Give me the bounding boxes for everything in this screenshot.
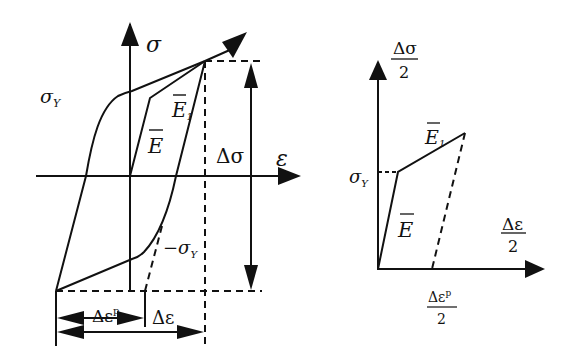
svg-text:E1: E1 — [424, 126, 445, 149]
svg-text:2: 2 — [437, 311, 446, 327]
svg-text:Δσ: Δσ — [393, 38, 417, 58]
negative-yield-label: −σY — [163, 237, 198, 260]
svg-text:Δε: Δε — [502, 214, 523, 234]
svg-text:E1: E1 — [171, 98, 193, 122]
plastic-strain-label: Δεp — [92, 305, 120, 326]
strain-range-label: Δε — [152, 307, 174, 328]
sigma-axis-label: σ — [146, 32, 162, 57]
half-stress-axis-label: Δσ 2 — [391, 38, 418, 82]
modulus1-label: E1 — [171, 95, 193, 122]
sigma-axis-arrowhead — [121, 22, 139, 46]
stress-range-arrowhead-bottom — [244, 265, 258, 290]
half-stress-axis-arrowhead — [369, 60, 387, 80]
half-plastic-strain-label: Δεp 2 — [427, 288, 457, 327]
left-hysteresis-diagram: σ ε σY −σY E E1 Δσ Δεp Δε — [36, 22, 301, 346]
stress-range-label: Δσ — [216, 144, 244, 168]
stress-range-arrowhead-top — [244, 63, 258, 88]
bilinear-curve — [378, 133, 465, 269]
tangent-extension — [145, 226, 162, 291]
svg-text:2: 2 — [508, 237, 518, 256]
stress-strain-figure: σ ε σY −σY E E1 Δσ Δεp Δε Δσ 2 Δε — [0, 0, 578, 362]
right-yield-label: σY — [349, 166, 369, 189]
modulus-label: E — [147, 130, 163, 158]
right-bilinear-diagram: Δσ 2 Δε 2 Δεp 2 σY E1 E — [349, 38, 545, 327]
svg-text:Δεp: Δεp — [428, 288, 451, 305]
half-strain-axis-arrowhead — [525, 260, 545, 278]
half-strain-axis-label: Δε 2 — [501, 214, 526, 256]
svg-text:2: 2 — [399, 63, 409, 82]
plastic-strain-arrowhead-right — [117, 311, 144, 325]
yield-stress-label: σY — [40, 85, 62, 110]
svg-text:E: E — [397, 218, 413, 242]
hysteresis-diagrams: σ ε σY −σY E E1 Δσ Δεp Δε Δσ 2 Δε — [0, 0, 578, 362]
loading-arrowhead — [222, 32, 247, 58]
svg-text:E: E — [147, 134, 163, 158]
initial-loading-line — [130, 61, 205, 176]
right-modulus-label: E — [397, 214, 414, 242]
epsilon-axis-label: ε — [276, 146, 288, 171]
right-modulus1-label: E1 — [424, 123, 445, 149]
strain-range-arrowhead-left — [57, 325, 84, 339]
strain-range-arrowhead-right — [177, 325, 204, 339]
unloading-dash — [432, 133, 465, 269]
plastic-strain-arrowhead-left — [57, 311, 84, 325]
